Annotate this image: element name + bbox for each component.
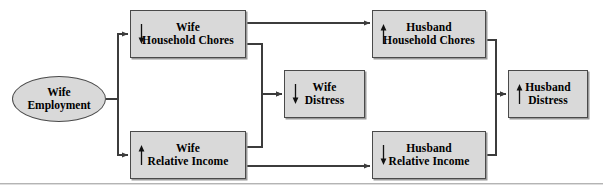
node-label: Wife Employment	[27, 86, 90, 112]
node-wife-household-chores[interactable]: Wife Household Chores	[130, 10, 246, 58]
node-husband-household-chores[interactable]: Husband Household Chores	[372, 10, 486, 58]
node-label: Husband Relative Income	[385, 142, 472, 168]
node-husband-relative-income[interactable]: Husband Relative Income	[372, 131, 486, 179]
edge-husband-relative-income-to-husband-distress	[486, 94, 506, 155]
bottom-divider	[0, 183, 603, 185]
node-wife-distress[interactable]: Wife Distress	[284, 70, 365, 118]
edge-wife-employment-to-wife-relative-income	[106, 99, 128, 155]
node-label: Husband Distress	[522, 81, 573, 107]
edge-wife-relative-income-to-wife-distress	[246, 94, 282, 147]
node-husband-distress[interactable]: Husband Distress	[508, 70, 588, 118]
node-label: Wife Household Chores	[139, 21, 237, 47]
node-label: Wife Relative Income	[144, 142, 231, 168]
edge-wife-household-chores-to-wife-distress	[246, 44, 282, 94]
node-wife-relative-income[interactable]: Wife Relative Income	[130, 131, 246, 179]
diagram-canvas: Wife Employment Wife Household Chores Wi…	[0, 0, 603, 195]
arrow-down-icon	[291, 83, 300, 105]
node-wife-employment[interactable]: Wife Employment	[12, 76, 106, 122]
edge-wife-employment-to-wife-household-chores	[106, 34, 128, 99]
node-label: Husband Household Chores	[380, 21, 478, 47]
node-label: Wife Distress	[302, 81, 348, 107]
edge-husband-household-chores-to-husband-distress	[486, 40, 506, 94]
